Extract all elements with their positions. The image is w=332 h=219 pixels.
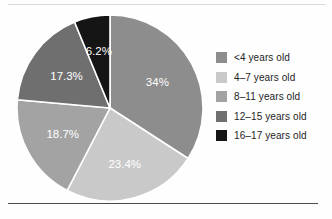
legend-label-12-15: 12–15 years old bbox=[234, 111, 307, 122]
top-divider bbox=[8, 4, 326, 5]
legend-item-12-15[interactable]: 12–15 years old bbox=[216, 107, 328, 127]
pie-chart-area: 34% 23.4% 18.7% 17.3% 6.2% bbox=[16, 14, 204, 202]
legend-label-16-17: 16–17 years old bbox=[234, 130, 307, 141]
pie-label-8-11: 18.7% bbox=[46, 128, 79, 140]
legend-swatch-4-7 bbox=[216, 72, 227, 83]
pie-label-4-7: 23.4% bbox=[108, 158, 141, 170]
pie-slices bbox=[17, 15, 203, 201]
legend-item-16-17[interactable]: 16–17 years old bbox=[216, 126, 328, 146]
legend-swatch-16-17 bbox=[216, 130, 227, 141]
pie-label-16-17: 6.2% bbox=[86, 45, 112, 57]
legend-swatch-12-15 bbox=[216, 111, 227, 122]
pie-chart-svg: 34% 23.4% 18.7% 17.3% 6.2% bbox=[16, 14, 204, 202]
legend-item-8-11[interactable]: 8–11 years old bbox=[216, 87, 328, 107]
pie-label-12-15: 17.3% bbox=[50, 70, 83, 82]
pie-label-under-4: 34% bbox=[146, 76, 169, 88]
legend-swatch-8-11 bbox=[216, 91, 227, 102]
chart-legend: <4 years old 4–7 years old 8–11 years ol… bbox=[216, 48, 328, 146]
legend-item-under-4[interactable]: <4 years old bbox=[216, 48, 328, 68]
legend-swatch-under-4 bbox=[216, 52, 227, 63]
legend-item-4-7[interactable]: 4–7 years old bbox=[216, 68, 328, 88]
bottom-divider bbox=[8, 203, 318, 204]
legend-label-4-7: 4–7 years old bbox=[234, 72, 295, 83]
legend-label-8-11: 8–11 years old bbox=[234, 91, 300, 102]
legend-label-under-4: <4 years old bbox=[234, 52, 290, 63]
pie-chart-figure: 34% 23.4% 18.7% 17.3% 6.2% <4 years old … bbox=[0, 0, 332, 219]
